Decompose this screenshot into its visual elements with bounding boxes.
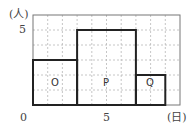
- bars: [33, 30, 165, 105]
- bar-q-label: Q: [146, 78, 154, 88]
- bar-o-label: O: [51, 78, 59, 88]
- bar-p-label: P: [103, 78, 109, 88]
- x-tick-5: 5: [103, 112, 110, 123]
- y-axis-unit-label: (人): [9, 9, 29, 20]
- x-axis-unit-label: (日): [167, 112, 187, 123]
- x-tick-0: 0: [20, 112, 27, 123]
- y-tick-5: 5: [19, 24, 26, 35]
- chart-canvas: [0, 0, 195, 129]
